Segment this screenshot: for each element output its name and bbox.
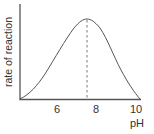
y-axis-label: rate of reaction [2, 17, 14, 87]
x-tick-8: 8 [93, 103, 99, 115]
x-axis-label: pH [130, 117, 144, 129]
ph-rate-chart: 6 8 10 pH rate of reaction [0, 0, 154, 134]
x-tick-6: 6 [54, 103, 60, 115]
x-tick-10: 10 [130, 103, 142, 115]
rate-curve [20, 19, 140, 99]
